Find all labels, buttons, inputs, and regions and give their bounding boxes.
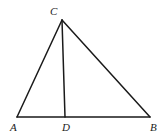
triangle-diagram: C A D B [0,0,165,138]
segment-bc [62,20,150,117]
point-label-b: B [150,121,157,133]
point-label-c: C [50,5,58,17]
point-label-d: D [61,121,70,133]
point-label-a: A [9,121,17,133]
segment-cd [62,20,65,117]
segment-ac [17,20,62,117]
